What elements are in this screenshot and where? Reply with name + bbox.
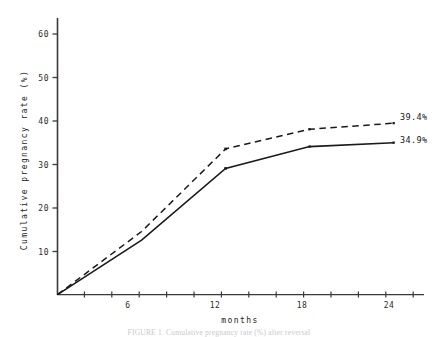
x-tick-label-6: 6 [125,301,130,310]
y-tick-label-30: 30 [38,161,49,170]
x-tick-label-18: 18 [297,301,308,310]
x-tick-label-12: 12 [210,301,221,310]
y-tick-label-40: 40 [38,117,49,126]
y-tick-label-50: 50 [38,74,49,83]
solid-endpoint-label: 34.9% [400,135,428,145]
figure-caption: FIGURE 1. Cumulative pregnancy rate (%) … [0,328,438,337]
line-chart: 10 20 30 40 50 60 6 12 18 24 months [0,0,438,337]
solid-series-markers [224,142,394,170]
y-tick-label-60: 60 [38,30,49,39]
y-axis-title: Cumulative pregnancy rate (%) [20,70,29,250]
solid-series-line [58,143,394,295]
dashed-endpoint-label: 39.4% [400,112,428,122]
y-tick-label-20: 20 [38,204,49,213]
x-tick-label-24: 24 [384,301,395,310]
figure-panel: 10 20 30 40 50 60 6 12 18 24 months [0,0,438,337]
x-axis-title: months [221,316,258,325]
y-tick-label-10: 10 [38,248,49,257]
